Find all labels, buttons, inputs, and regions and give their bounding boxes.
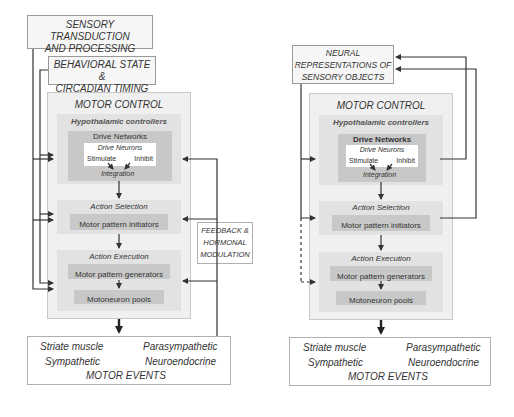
connector-lines [0,0,514,417]
